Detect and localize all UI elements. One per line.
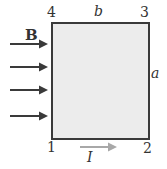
corner-label-4: 4	[47, 5, 56, 19]
current-label-I: I	[87, 150, 93, 164]
current-arrow	[80, 143, 117, 152]
corner-label-2: 2	[143, 141, 152, 155]
field-label-B: B	[25, 28, 38, 42]
side-label-b: b	[94, 4, 103, 18]
diagram-canvas: B 4 3 1 2 b a I	[0, 0, 167, 169]
corner-label-1: 1	[47, 140, 56, 154]
side-label-a: a	[151, 66, 159, 80]
corner-label-3: 3	[140, 5, 149, 19]
magnetic-field-arrows	[10, 40, 48, 121]
